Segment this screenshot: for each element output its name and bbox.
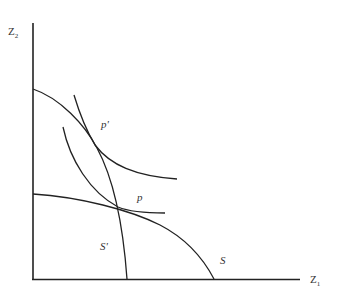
curve-s: [33, 194, 214, 279]
point-label-p-prime: p': [100, 118, 110, 130]
curve-label-s: S: [220, 254, 226, 266]
point-label-p: p: [136, 191, 143, 203]
x-axis-label: Z1: [310, 273, 321, 288]
y-axis-label: Z2: [8, 25, 19, 40]
curve-s-prime: [33, 89, 127, 279]
indifference-curve-upper: [74, 95, 177, 179]
diagram: Z2 Z1 p' p S' S: [0, 0, 340, 301]
curve-label-s-prime: S': [100, 240, 109, 252]
